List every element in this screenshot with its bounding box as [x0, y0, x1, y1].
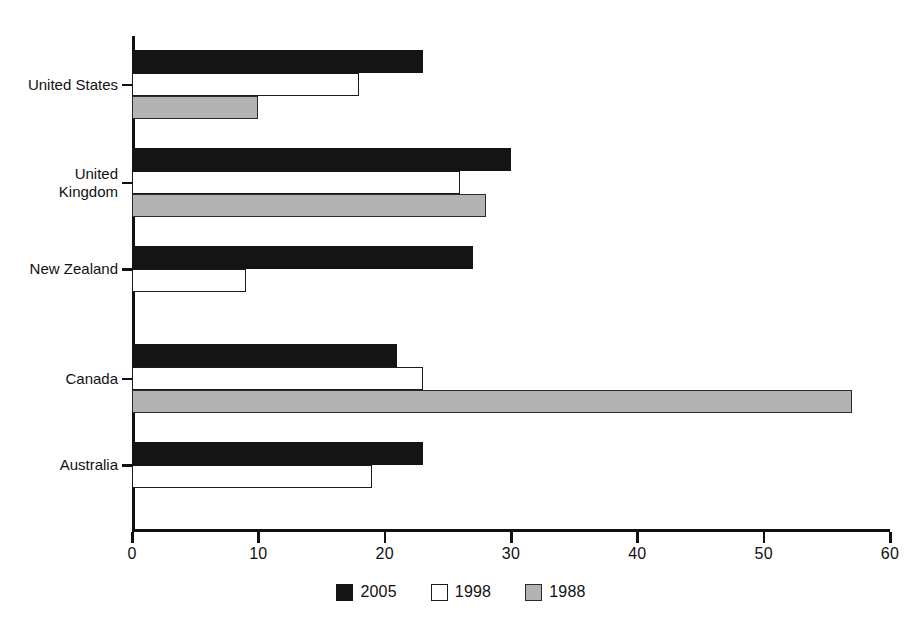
- category-label-text: New Zealand: [30, 260, 118, 278]
- x-axis-tick-label: 10: [249, 545, 267, 563]
- bar-row: [132, 269, 890, 292]
- bar-chart: United StatesUnited KingdomNew ZealandCa…: [0, 0, 922, 629]
- bar-1998-united-kingdom: [132, 171, 460, 194]
- bar-row: [132, 194, 890, 217]
- bar-1988-united-states: [132, 96, 258, 119]
- bar-2005-united-states: [132, 50, 423, 73]
- x-axis-tick-label: 50: [754, 545, 772, 563]
- category-label-text: Canada: [65, 370, 118, 388]
- bar-row: [132, 148, 890, 171]
- x-axis-tick: [384, 532, 387, 543]
- x-axis-tick: [510, 532, 513, 543]
- x-axis-tick-label: 30: [502, 545, 520, 563]
- bar-1998-united-states: [132, 73, 359, 96]
- black-filled-square-icon: [336, 584, 353, 601]
- legend-label: 2005: [360, 583, 396, 601]
- gray-filled-square-icon: [525, 584, 542, 601]
- legend-label: 1998: [455, 583, 491, 601]
- bar-1998-new-zealand: [132, 269, 246, 292]
- bar-row: [132, 390, 890, 413]
- y-axis-tick: [122, 464, 133, 467]
- category-label-text: Australia: [60, 456, 118, 474]
- x-axis-tick: [257, 532, 260, 543]
- legend-item-1988: 1988: [525, 583, 585, 601]
- x-axis-tick: [889, 532, 892, 543]
- bar-row: [132, 367, 890, 390]
- bar-row: [132, 465, 890, 488]
- bar-1988-united-kingdom: [132, 194, 486, 217]
- bar-row: [132, 171, 890, 194]
- x-axis-tick: [636, 532, 639, 543]
- y-axis-tick: [122, 182, 133, 185]
- bar-row: [132, 50, 890, 73]
- bar-row: [132, 73, 890, 96]
- bar-row: [132, 246, 890, 269]
- bar-1998-canada: [132, 367, 423, 390]
- category-label-text: United Kingdom: [59, 165, 118, 201]
- legend-item-1998: 1998: [431, 583, 491, 601]
- bar-2005-canada: [132, 344, 397, 367]
- bar-1988-canada: [132, 390, 852, 413]
- x-axis-tick-label: 60: [881, 545, 899, 563]
- bar-2005-australia: [132, 442, 423, 465]
- x-axis-tick: [763, 532, 766, 543]
- legend-label: 1988: [549, 583, 585, 601]
- y-axis-tick: [122, 378, 133, 381]
- bar-row: [132, 442, 890, 465]
- bar-2005-united-kingdom: [132, 148, 511, 171]
- x-axis-tick-label: 40: [628, 545, 646, 563]
- x-axis-tick-label: 0: [127, 545, 136, 563]
- bar-row: [132, 96, 890, 119]
- category-label-text: United States: [28, 76, 118, 94]
- chart-legend: 200519981988: [0, 583, 922, 601]
- y-axis-tick: [122, 84, 133, 87]
- x-axis-tick: [131, 532, 134, 543]
- bar-row: [132, 344, 890, 367]
- legend-item-2005: 2005: [336, 583, 396, 601]
- bar-2005-new-zealand: [132, 246, 473, 269]
- x-axis-tick-label: 20: [375, 545, 393, 563]
- y-axis-tick: [122, 268, 133, 271]
- bar-1998-australia: [132, 465, 372, 488]
- white-outline-square-icon: [431, 584, 448, 601]
